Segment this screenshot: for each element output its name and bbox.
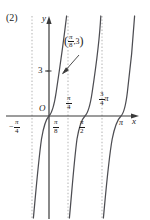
fraction-pi-over-4: π4 [66, 95, 72, 111]
fraction-numerator: π [79, 119, 85, 126]
tangent-function-graph: (2) y x O 3 −π4 π8 π4 π2 34π π (π8,3) [0, 0, 150, 220]
x-tick-label-neg-pi-over-4: −π4 [9, 118, 20, 135]
callout-leader [63, 55, 79, 74]
fraction-pi-over-2: π2 [79, 119, 85, 135]
pi-symbol: π [119, 119, 123, 127]
fraction-denominator: 4 [14, 127, 20, 135]
graph-canvas [0, 0, 150, 220]
x-tick-label-pi-over-8: π8 [53, 118, 59, 135]
x-axis-label: x [132, 117, 136, 126]
fraction-denominator: 2 [79, 127, 85, 135]
x-tick-label-pi-over-2: π2 [79, 118, 85, 135]
fraction-numerator: π [14, 119, 20, 126]
point-annotation: (π8,3) [64, 34, 84, 50]
x-tick-label-three-pi-over-4: 34π [99, 90, 109, 107]
x-tick-label-pi: π [119, 114, 123, 130]
callout-arrowhead [63, 68, 69, 74]
fraction-numerator: π [66, 95, 72, 102]
fraction-pi-over-4: π4 [14, 119, 20, 135]
problem-number: (2) [6, 13, 18, 23]
fraction-pi-over-8: π8 [53, 119, 59, 135]
origin-label: O [39, 104, 46, 113]
close-paren: ) [80, 35, 84, 47]
x-tick-label-pi-over-4: π4 [66, 94, 72, 111]
pi-symbol: π [105, 95, 109, 103]
open-paren: ( [64, 35, 68, 47]
y-tick-label-3: 3 [38, 66, 43, 75]
tangent-branch-1 [33, 16, 66, 218]
fraction-numerator: π [53, 119, 59, 126]
y-axis-arrowhead [46, 16, 51, 24]
fraction-denominator: 4 [66, 103, 72, 111]
y-axis-label: y [42, 14, 46, 23]
fraction-denominator: 8 [53, 127, 59, 135]
